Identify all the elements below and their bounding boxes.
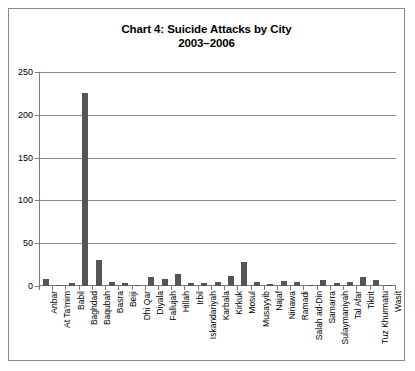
x-tick-label: Babil xyxy=(76,291,86,310)
x-tick-mark xyxy=(290,286,291,290)
x-tick-label: Hillah xyxy=(181,291,191,312)
x-tick-label: Dhi Qar xyxy=(142,291,152,320)
x-tick-label: Kirkuk xyxy=(234,291,244,315)
x-tick-label: Salah ad-Din xyxy=(314,291,324,340)
x-tick-label: Tal Afar xyxy=(353,291,363,319)
y-tick-label: 50 xyxy=(23,238,33,248)
x-tick-mark xyxy=(52,286,53,290)
x-tick-label: Fallujah xyxy=(168,291,178,321)
x-tick-label: Musayyib xyxy=(261,291,271,327)
x-tick-label: Beiji xyxy=(128,291,138,307)
y-tick-label: 150 xyxy=(18,153,33,163)
chart-figure: Chart 4: Suicide Attacks by City 2003–20… xyxy=(8,8,405,361)
chart-title-line-2: 2003–2006 xyxy=(9,36,404,50)
x-tick-mark xyxy=(395,286,396,290)
x-tick-mark xyxy=(65,286,66,290)
x-tick-label: Wasit xyxy=(393,291,403,312)
x-tick-label: Najaf xyxy=(274,291,284,311)
x-tick-mark xyxy=(184,286,185,290)
bar xyxy=(162,279,168,286)
x-tick-mark xyxy=(92,286,93,290)
x-tick-label: Sulaymaniyah xyxy=(340,291,350,344)
x-tick-label: Basra xyxy=(115,291,125,313)
x-tick-label: Karbala xyxy=(221,291,231,320)
x-tick-label: Baghdad xyxy=(89,291,99,325)
x-tick-mark xyxy=(145,286,146,290)
bar xyxy=(96,260,102,286)
x-tick-mark xyxy=(383,286,384,290)
x-tick-mark xyxy=(343,286,344,290)
x-tick-mark xyxy=(118,286,119,290)
x-tick-label: Mosul xyxy=(247,291,257,314)
y-tick-label: 200 xyxy=(18,110,33,120)
bar xyxy=(43,279,49,286)
x-axis-labels: AnbarAt Ta'mimBabilBaghdadBaqubahBasraBe… xyxy=(39,291,396,361)
x-tick-label: Iskandariyah xyxy=(208,291,218,339)
x-tick-label: Anbar xyxy=(49,291,59,314)
x-tick-mark xyxy=(132,286,133,290)
chart-title: Chart 4: Suicide Attacks by City 2003–20… xyxy=(9,22,404,50)
x-tick-mark xyxy=(264,286,265,290)
x-tick-mark xyxy=(158,286,159,290)
x-tick-mark xyxy=(356,286,357,290)
bar xyxy=(82,93,88,286)
bar xyxy=(148,277,154,286)
y-tick-label: 250 xyxy=(18,67,33,77)
x-tick-label: Samarra xyxy=(327,291,337,324)
x-tick-mark xyxy=(171,286,172,290)
y-tick-label: 100 xyxy=(18,195,33,205)
x-tick-mark xyxy=(251,286,252,290)
bar xyxy=(241,262,247,286)
bar xyxy=(228,276,234,286)
x-tick-mark xyxy=(79,286,80,290)
bar xyxy=(175,274,181,286)
x-tick-mark xyxy=(198,286,199,290)
x-tick-label: Baqubah xyxy=(102,291,112,325)
x-tick-label: Diyala xyxy=(155,291,165,315)
x-tick-mark xyxy=(39,286,40,290)
x-tick-mark xyxy=(224,286,225,290)
plot-area: 050100150200250 xyxy=(39,72,396,286)
bar xyxy=(360,277,366,286)
x-tick-label: Ramadi xyxy=(300,291,310,320)
x-tick-label: Ninawa xyxy=(287,291,297,319)
x-tick-mark xyxy=(211,286,212,290)
x-tick-label: Tikrit xyxy=(366,291,376,309)
chart-title-line-1: Chart 4: Suicide Attacks by City xyxy=(9,22,404,36)
x-tick-mark xyxy=(370,286,371,290)
x-tick-mark xyxy=(277,286,278,290)
x-tick-label: At Ta'mim xyxy=(62,291,72,328)
x-tick-mark xyxy=(330,286,331,290)
x-tick-label: Tuz Khurmatu xyxy=(380,291,390,344)
bar-series xyxy=(39,72,396,286)
x-tick-mark xyxy=(105,286,106,290)
x-tick-mark xyxy=(317,286,318,290)
x-tick-label: Irbil xyxy=(195,291,205,305)
x-tick-mark xyxy=(303,286,304,290)
x-tick-mark xyxy=(237,286,238,290)
y-tick-label: 0 xyxy=(28,281,33,291)
